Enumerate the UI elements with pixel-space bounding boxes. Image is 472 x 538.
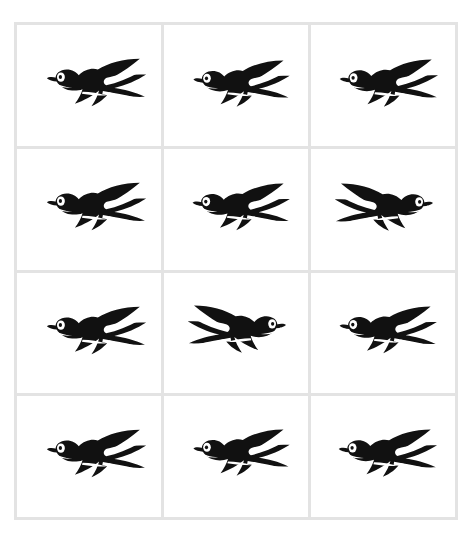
swallow-silhouette	[30, 422, 158, 492]
swallow-cell[interactable]	[164, 396, 308, 517]
swallow-beak	[47, 77, 57, 82]
swallow-frame	[311, 149, 455, 270]
swallow-silhouette	[176, 298, 303, 367]
swallow-cell[interactable]	[164, 273, 308, 394]
swallow-beak	[47, 448, 57, 453]
swallow-frame	[164, 273, 308, 394]
swallow-beak	[193, 78, 203, 82]
swallow-body-path	[56, 306, 147, 354]
swallow-beak	[47, 201, 57, 206]
swallow-frame	[164, 396, 308, 517]
swallow-body-path	[348, 60, 438, 107]
swallow-silhouette	[323, 52, 450, 121]
swallow-beak	[276, 323, 286, 327]
swallow-body-path	[56, 59, 147, 107]
eye-pupil	[351, 76, 354, 80]
swallow-body-path	[202, 60, 290, 106]
swallow-cell[interactable]	[17, 396, 161, 517]
swallow-body-path	[335, 183, 425, 230]
swallow-silhouette	[176, 176, 301, 245]
swallow-silhouette	[323, 176, 450, 245]
eye-pupil	[271, 321, 274, 325]
swallow-beak	[339, 448, 349, 452]
eye-pupil	[204, 199, 207, 203]
eye-pupil	[59, 323, 62, 327]
eye-pupil	[351, 322, 354, 326]
artwork-sheet	[0, 0, 472, 538]
swallow-cell[interactable]	[311, 149, 455, 270]
swallow-cell[interactable]	[164, 149, 308, 270]
eye-pupil	[59, 199, 62, 203]
swallow-cell[interactable]	[164, 25, 308, 146]
swallow-body-path	[201, 183, 290, 230]
eye-pupil	[59, 75, 62, 79]
swallow-body-path	[202, 430, 290, 476]
eye-pupil	[205, 76, 208, 80]
swallow-frame	[311, 396, 455, 517]
swallow-silhouette	[30, 175, 158, 245]
eye-pupil	[59, 446, 62, 450]
swallow-cell[interactable]	[17, 149, 161, 270]
swallow-beak	[340, 324, 350, 328]
swallow-cell[interactable]	[311, 396, 455, 517]
swallow-beak	[47, 325, 57, 330]
eye-pupil	[205, 446, 208, 450]
swallow-body-path	[347, 430, 437, 477]
swallow-cell[interactable]	[17, 25, 161, 146]
eye-pupil	[350, 446, 353, 450]
swallow-silhouette	[30, 299, 158, 369]
swallow-cell[interactable]	[17, 273, 161, 394]
swallow-frame	[17, 25, 161, 146]
swallow-body-path	[56, 182, 147, 230]
swallow-silhouette	[177, 53, 301, 121]
swallow-beak	[193, 447, 203, 451]
swallow-body-path	[56, 430, 147, 478]
swallow-cell[interactable]	[311, 25, 455, 146]
swallow-body-path	[188, 305, 278, 352]
eye-pupil	[418, 200, 421, 204]
swallow-silhouette	[30, 51, 158, 121]
swallow-frame	[311, 25, 455, 146]
swallow-frame	[17, 396, 161, 517]
swallow-frame	[311, 273, 455, 394]
swallow-frame	[164, 25, 308, 146]
swallow-beak	[193, 201, 203, 205]
swallow-grid	[14, 22, 458, 520]
swallow-frame	[17, 149, 161, 270]
swallow-silhouette	[323, 299, 448, 368]
swallow-silhouette	[322, 422, 449, 491]
swallow-cell[interactable]	[311, 273, 455, 394]
swallow-beak	[340, 78, 350, 82]
swallow-body-path	[348, 306, 437, 353]
swallow-beak	[423, 202, 433, 206]
swallow-frame	[17, 273, 161, 394]
swallow-silhouette	[177, 422, 301, 490]
swallow-frame	[164, 149, 308, 270]
